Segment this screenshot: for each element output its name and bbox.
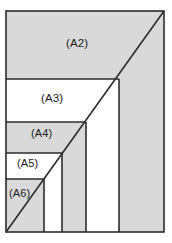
paper-size-diagram: (A2) (A3) (A4) (A5) (A6) (0, 0, 172, 243)
strip-a4-right (86, 122, 119, 232)
region-label-a3: (A3) (41, 93, 63, 105)
region-label-a6: (A6) (9, 188, 30, 199)
strip-a6-right (44, 179, 62, 232)
strip-a5-right (62, 153, 86, 232)
region-label-a4: (A4) (31, 128, 52, 139)
strip-a3-right (119, 79, 164, 232)
region-label-a5: (A5) (17, 158, 38, 169)
region-label-a2: (A2) (66, 38, 88, 50)
